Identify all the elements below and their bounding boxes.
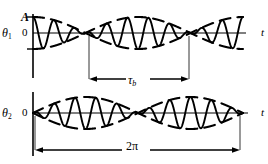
beat-period-subscript: b xyxy=(132,79,136,88)
amplitude-label: A xyxy=(21,11,29,23)
beat-pattern-figure: A θ1 0 θ2 0 t t τb 2π xyxy=(0,0,268,164)
total-span-arrowhead-right xyxy=(232,147,240,153)
total-span-label: 2π xyxy=(126,140,138,152)
total-span-arrowhead-left xyxy=(35,147,43,153)
theta1-axis-label: θ1 xyxy=(2,27,12,41)
theta2-axis-label: θ2 xyxy=(2,107,12,121)
beat-period-arrowhead-left xyxy=(89,76,97,82)
theta1-subscript: 1 xyxy=(8,32,12,41)
beat-period-arrowhead-right xyxy=(181,76,189,82)
beat-period-label: τb xyxy=(128,74,136,88)
theta2-subscript: 2 xyxy=(8,112,12,121)
time-axis-label-bottom: t xyxy=(261,107,264,118)
time-axis-label-top: t xyxy=(261,27,264,38)
zero-label-top: 0 xyxy=(22,27,28,38)
zero-label-bottom: 0 xyxy=(22,107,28,118)
